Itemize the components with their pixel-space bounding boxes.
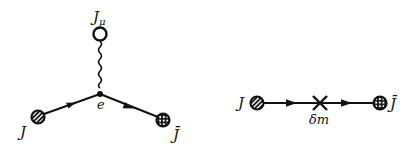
label-delta-m: δm — [309, 112, 329, 127]
feynman-diagrams: Jμ e J J̄ J δm J̄ — [0, 0, 418, 149]
photon-line — [99, 41, 102, 88]
arrow-icon — [341, 99, 352, 106]
current-source-open — [94, 28, 107, 41]
label-j-left: J — [17, 123, 27, 141]
label-j-left: J — [235, 94, 245, 112]
source-dotted — [374, 97, 387, 110]
label-vertex-e: e — [97, 97, 105, 112]
label-jbar-right: J̄ — [387, 95, 397, 113]
source-hatched — [32, 111, 45, 124]
label-j-mu: Jμ — [90, 8, 106, 27]
arrow-icon — [66, 103, 76, 109]
mass-insertion-diagram: J δm J̄ — [235, 94, 397, 127]
label-jbar-right: J̄ — [170, 126, 180, 144]
vertex-diagram: Jμ e J J̄ — [17, 8, 180, 144]
source-dotted — [157, 114, 170, 127]
arrow-icon — [286, 99, 297, 106]
source-hatched — [251, 97, 264, 110]
